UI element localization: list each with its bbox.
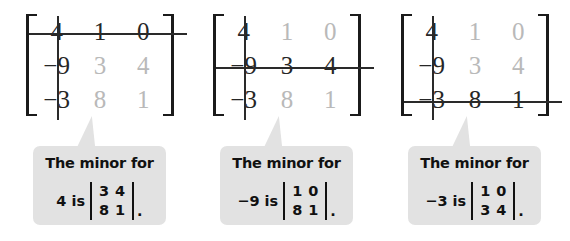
panel-minor-4: 4 1 0 −9 3 4 −3 8 1 The minor for 4 is [0,0,190,241]
caption-entry-label: −9 is [237,193,278,209]
caption-line-1: The minor for [33,155,166,171]
minor-cell-r2c2: 1 [112,201,128,220]
caption-line-1: The minor for [220,155,353,171]
minor-determinant: 1 0 3 4 [471,182,515,220]
matrix-grid: 4 1 0 −9 3 4 −3 8 1 [35,14,165,116]
minor-grid: 3 4 8 1 [96,182,128,220]
caption-bubble-1: The minor for 4 is 3 4 8 1 . [33,146,166,225]
matrix-cell-r2c3: 4 [497,48,540,82]
strike-line-column-1 [432,16,434,120]
minor-grid: 1 0 3 4 [477,182,509,220]
minor-cell-r1c2: 0 [493,182,509,201]
minor-determinant: 1 0 8 1 [283,182,327,220]
caption-period: . [137,203,143,219]
strike-line-row-1 [29,33,187,35]
minor-cell-r2c1: 8 [96,201,112,220]
matrix-cell-r1c2: 1 [453,14,496,48]
minor-cell-r1c2: 4 [112,182,128,201]
minor-determinant: 3 4 8 1 [90,182,134,220]
matrix-grid: 4 1 0 −9 3 4 −3 8 1 [222,14,352,116]
caption-bubble-3: The minor for −3 is 1 0 3 4 . [408,146,541,225]
minor-cell-r1c1: 1 [289,182,305,201]
minor-cell-r2c1: 8 [289,201,305,220]
bubble-tail-icon [77,116,103,147]
caption-line-2: 4 is 3 4 8 1 . [33,182,166,220]
matrix-cell-r2c3: 4 [122,48,165,82]
caption-line-2: −9 is 1 0 8 1 . [220,182,353,220]
panel-minor-neg3: 4 1 0 −9 3 4 −3 8 1 The minor for −3 is [375,0,565,241]
determinant-bar-left-icon [471,182,473,220]
matrix-cell-r3c2: 8 [265,82,308,116]
caption-entry-label: 4 is [56,193,85,209]
minor-grid: 1 0 8 1 [289,182,321,220]
matrix-cell-r3c3: 1 [497,82,540,116]
minor-cell-r2c2: 1 [305,201,321,220]
matrix-3: 4 1 0 −9 3 4 −3 8 1 [401,14,549,116]
determinant-bar-left-icon [90,182,92,220]
matrix-1: 4 1 0 −9 3 4 −3 8 1 [26,14,174,116]
caption-line-1: The minor for [408,155,541,171]
matrix-cell-r1c3: 0 [497,14,540,48]
minor-cell-r1c2: 0 [305,182,321,201]
matrix-cell-r1c2: 1 [78,14,121,48]
determinant-bar-left-icon [283,182,285,220]
caption-period: . [330,203,336,219]
caption-line-2: −3 is 1 0 3 4 . [408,182,541,220]
matrix-cell-r1c2: 1 [265,14,308,48]
caption-entry-label: −3 is [425,193,466,209]
matrix-grid: 4 1 0 −9 3 4 −3 8 1 [410,14,540,116]
matrix-cell-r2c2: 3 [78,48,121,82]
strike-line-row-3 [404,101,562,103]
strike-line-row-2 [216,67,374,69]
matrix-2: 4 1 0 −9 3 4 −3 8 1 [213,14,361,116]
matrix-cell-r1c3: 0 [309,14,352,48]
minor-cell-r1c1: 3 [96,182,112,201]
matrix-cell-r3c3: 1 [309,82,352,116]
matrix-cell-r2c2: 3 [265,48,308,82]
bubble-tail-icon [264,116,290,147]
matrix-cell-r3c3: 1 [122,82,165,116]
minor-cell-r2c1: 3 [477,201,493,220]
matrix-cell-r2c3: 4 [309,48,352,82]
determinant-bar-right-icon [513,182,515,220]
matrix-cell-r3c2: 8 [78,82,121,116]
matrix-cell-r3c2: 8 [453,82,496,116]
determinant-bar-right-icon [325,182,327,220]
matrix-cell-r2c2: 3 [453,48,496,82]
panel-minor-neg9: 4 1 0 −9 3 4 −3 8 1 The minor for −9 is [187,0,377,241]
caption-period: . [518,203,524,219]
matrix-cell-r1c3: 0 [122,14,165,48]
caption-bubble-2: The minor for −9 is 1 0 8 1 . [220,146,353,225]
bubble-tail-icon [452,116,478,147]
minor-cell-r1c1: 1 [477,182,493,201]
strike-line-column-1 [57,16,59,120]
figure-minors-of-matrix: 4 1 0 −9 3 4 −3 8 1 The minor for 4 is [0,0,570,241]
minor-cell-r2c2: 4 [493,201,509,220]
determinant-bar-right-icon [132,182,134,220]
